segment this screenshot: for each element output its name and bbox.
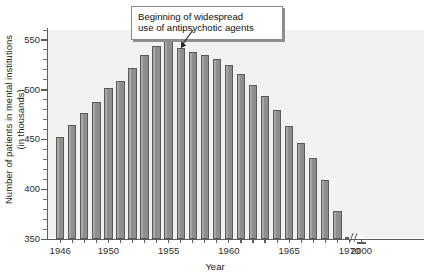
x-axis-tick (108, 239, 109, 243)
y-axis-title-line2: (in thousands) (14, 89, 25, 149)
y-axis-minor-tick (43, 159, 48, 160)
x-axis-tick (240, 239, 241, 243)
y-axis-minor-tick (43, 59, 48, 60)
y-axis-minor-tick (43, 79, 48, 80)
bar (333, 211, 341, 239)
x-axis-tick (337, 239, 338, 243)
x-axis-tick (264, 239, 265, 243)
y-axis-major-tick (41, 89, 48, 90)
bar (297, 143, 305, 239)
y-axis-minor-tick (43, 109, 48, 110)
y-axis-major-tick (41, 239, 48, 240)
x-axis-tick (277, 239, 278, 243)
x-axis-tick-label: 1950 (98, 245, 119, 256)
y-axis-minor-tick (43, 49, 48, 50)
bar (140, 55, 148, 239)
bar (309, 158, 317, 239)
bar (225, 65, 233, 239)
x-axis-tick (192, 239, 193, 243)
y-axis-tick-label: 350 (0, 234, 40, 244)
x-axis-title: Year (0, 261, 430, 272)
bar (201, 55, 209, 239)
bar (68, 125, 76, 239)
y-axis-minor-tick (43, 209, 48, 210)
bar (189, 52, 197, 239)
callout-line-1: Beginning of widespread (138, 11, 243, 22)
bar (237, 74, 245, 239)
x-axis-tick (301, 239, 302, 243)
y-axis-minor-tick (43, 99, 48, 100)
bar (213, 59, 221, 239)
y-axis-minor-tick (43, 229, 48, 230)
annotation-callout: Beginning of widespread use of antipsych… (131, 6, 283, 40)
bar (249, 85, 257, 239)
y-axis-major-tick (41, 189, 48, 190)
y-axis-minor-tick (43, 129, 48, 130)
bar (92, 102, 100, 239)
x-axis-tick (96, 239, 97, 243)
bar (116, 81, 124, 239)
x-axis-tick (72, 239, 73, 243)
bar (285, 126, 293, 239)
bar (261, 96, 269, 239)
x-axis-tick-label: 1955 (158, 245, 179, 256)
x-axis-tick-label: 2000 (351, 245, 372, 256)
x-axis-tick (289, 239, 290, 243)
x-axis-tick (325, 239, 326, 243)
bar (152, 46, 160, 239)
y-axis-title-line1: Number of patients in mental institution… (3, 35, 14, 204)
x-axis-tick (313, 239, 314, 243)
x-axis-break-marker (348, 232, 362, 246)
y-axis-tick-label-text: 350 (6, 234, 40, 244)
bar (128, 68, 136, 239)
bar (164, 41, 172, 239)
x-axis-tick-label: 1946 (50, 245, 71, 256)
bar (104, 88, 112, 239)
x-axis-tick (204, 239, 205, 243)
y-axis-major-tick (41, 139, 48, 140)
y-axis-minor-tick (43, 149, 48, 150)
x-axis-tick (180, 239, 181, 243)
x-axis-tick-label: 1965 (279, 245, 300, 256)
bar (321, 180, 329, 239)
x-axis-tick (84, 239, 85, 243)
y-axis-minor-tick (43, 199, 48, 200)
bar (56, 137, 64, 239)
x-axis-tick (228, 239, 229, 243)
x-axis-tick (120, 239, 121, 243)
y-axis-major-tick (41, 39, 48, 40)
y-axis-minor-tick (43, 219, 48, 220)
x-axis-tick (216, 239, 217, 243)
bar (273, 110, 281, 239)
x-axis-tick (144, 239, 145, 243)
callout-arrow-icon (178, 29, 196, 49)
bar (177, 48, 185, 239)
x-axis-tick (132, 239, 133, 243)
y-axis-minor-tick (43, 30, 48, 31)
y-axis-minor-tick (43, 69, 48, 70)
y-axis-minor-tick (43, 119, 48, 120)
x-axis-tick (252, 239, 253, 243)
x-axis-tick (168, 239, 169, 243)
y-axis-title: Number of patients in mental institution… (3, 22, 26, 218)
x-axis-tick-label: 1960 (218, 245, 239, 256)
y-axis-minor-tick (43, 169, 48, 170)
callout-line-2: use of antipsychotic agents (138, 22, 276, 33)
bar-chart-figure: 350400450500550 194619501955196019651970… (0, 0, 430, 279)
bar (80, 113, 88, 239)
x-axis-tick (60, 239, 61, 243)
y-axis-minor-tick (43, 179, 48, 180)
x-axis-tick (156, 239, 157, 243)
x-axis-line (47, 239, 424, 240)
